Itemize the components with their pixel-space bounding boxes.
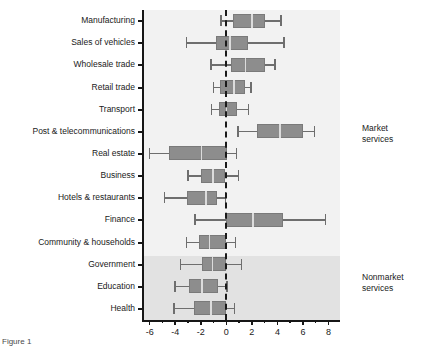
x-axis-tick-label: 6: [300, 327, 305, 337]
group-label-nonmarket-line1: Nonmarket: [362, 272, 404, 283]
x-axis: [142, 320, 340, 322]
category-label: Post & telecommunications: [32, 124, 135, 138]
x-axis-tick: [302, 320, 304, 325]
box-iqr: [187, 191, 218, 205]
median-line: [233, 80, 235, 94]
box-row: Hotels & restaurants: [142, 188, 340, 208]
plot-area: ManufacturingSales of vehiclesWholesale …: [142, 10, 340, 320]
box-iqr: [233, 14, 265, 28]
whisker-cap-low: [237, 126, 239, 137]
median-line: [210, 301, 212, 315]
group-label-nonmarket: Nonmarket services: [362, 272, 404, 294]
box-row: Real estate: [142, 144, 340, 164]
whisker-cap-high: [248, 104, 250, 115]
x-axis-minor-tick: [213, 320, 215, 323]
group-label-market-line1: Market: [362, 123, 393, 134]
group-label-nonmarket-line2: services: [362, 283, 404, 294]
whisker-cap-low: [213, 82, 215, 93]
box-iqr: [219, 102, 237, 116]
whisker-cap-low: [149, 148, 151, 159]
box-iqr: [169, 146, 227, 160]
whisker-cap-low: [194, 214, 196, 225]
category-label: Finance: [105, 212, 135, 226]
median-line: [209, 235, 211, 249]
box-row: Transport: [142, 100, 340, 120]
category-label: Transport: [99, 102, 135, 116]
box-row: Manufacturing: [142, 11, 340, 31]
x-axis-tick-label: 4: [275, 327, 280, 337]
category-label: Government: [88, 257, 135, 271]
whisker-cap-low: [180, 259, 182, 270]
whisker-cap-low: [220, 15, 222, 26]
whisker-cap-low: [173, 303, 175, 314]
x-axis-tick-label: 8: [326, 327, 331, 337]
category-label: Sales of vehicles: [71, 35, 135, 49]
median-line: [252, 213, 254, 227]
box-iqr: [202, 257, 226, 271]
category-label: Hotels & restaurants: [58, 190, 135, 204]
whisker-cap-low: [164, 192, 166, 203]
category-label: Manufacturing: [81, 13, 135, 27]
x-axis-tick: [251, 320, 253, 325]
x-axis-tick-label: -4: [171, 327, 179, 337]
whisker-cap-high: [314, 126, 316, 137]
box-row: Retail trade: [142, 78, 340, 98]
x-axis-minor-tick: [289, 320, 291, 323]
whisker-cap-low: [210, 59, 212, 70]
whisker-cap-high: [325, 214, 327, 225]
category-label: Health: [110, 301, 135, 315]
box-iqr: [231, 58, 264, 72]
median-line: [205, 191, 207, 205]
x-axis-tick-label: -2: [197, 327, 205, 337]
median-line: [279, 124, 281, 138]
box-row: Health: [142, 299, 340, 319]
group-label-market: Market services: [362, 123, 393, 145]
box-iqr: [226, 213, 282, 227]
median-line: [201, 146, 203, 160]
x-axis-tick: [277, 320, 279, 325]
x-axis-tick: [200, 320, 202, 325]
box-iqr: [199, 235, 225, 249]
median-line: [251, 14, 253, 28]
zero-reference-line: [225, 10, 227, 320]
category-label: Business: [101, 168, 136, 182]
category-label: Retail trade: [92, 80, 135, 94]
whisker-cap-high: [274, 59, 276, 70]
box-row: Finance: [142, 210, 340, 230]
box-row: Sales of vehicles: [142, 33, 340, 53]
whisker-cap-low: [187, 170, 189, 181]
x-axis-tick: [149, 320, 151, 325]
x-axis-tick: [226, 320, 228, 325]
x-axis-tick-label: -6: [146, 327, 154, 337]
x-axis-tick-label: 0: [224, 327, 229, 337]
box-row: Education: [142, 277, 340, 297]
whisker-cap-high: [283, 37, 285, 48]
whisker-cap-high: [234, 303, 236, 314]
category-label: Real estate: [92, 146, 135, 160]
whisker-cap-low: [186, 237, 188, 248]
group-label-market-line2: services: [362, 134, 393, 145]
whisker-cap-low: [174, 281, 176, 292]
figure-container: ManufacturingSales of vehiclesWholesale …: [0, 0, 444, 350]
box-row: Business: [142, 166, 340, 186]
y-axis: [142, 10, 144, 320]
x-axis-tick-label: 2: [249, 327, 254, 337]
x-axis-minor-tick: [238, 320, 240, 323]
median-line: [212, 169, 214, 183]
whisker-cap-high: [241, 259, 243, 270]
category-label: Community & households: [38, 235, 135, 249]
x-axis-minor-tick: [315, 320, 317, 323]
whisker-cap-high: [238, 170, 240, 181]
figure-caption: Figure 1: [2, 337, 31, 346]
x-axis-minor-tick: [264, 320, 266, 323]
category-label: Wholesale trade: [74, 57, 135, 71]
box-iqr: [216, 36, 248, 50]
whisker-cap-high: [236, 148, 238, 159]
whisker-cap-high: [250, 82, 252, 93]
x-axis-tick: [328, 320, 330, 325]
median-line: [245, 58, 247, 72]
median-line: [212, 257, 214, 271]
whisker-cap-high: [280, 15, 282, 26]
box-row: Post & telecommunications: [142, 122, 340, 142]
box-row: Community & households: [142, 233, 340, 253]
